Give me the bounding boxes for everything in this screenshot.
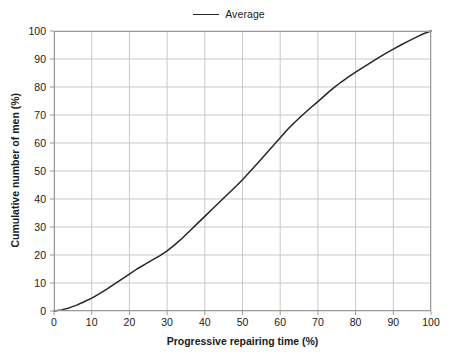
x-axis-tick-labels: 0102030405060708090100 (54, 317, 431, 333)
plot-frame (54, 31, 431, 311)
legend-label-average: Average (225, 9, 265, 20)
x-tick-label: 20 (109, 317, 149, 328)
plot-area (54, 31, 431, 311)
x-tick-label: 10 (72, 317, 112, 328)
x-tick-label: 80 (336, 317, 376, 328)
x-tick-label: 50 (223, 317, 263, 328)
x-axis-title: Progressive repairing time (%) (54, 336, 431, 347)
chart-legend: Average (0, 4, 458, 24)
x-tick-label: 70 (298, 317, 338, 328)
y-axis-tick-labels: 0102030405060708090100 (0, 31, 46, 311)
x-tick-label: 30 (147, 317, 187, 328)
x-tick-label: 40 (185, 317, 225, 328)
x-tick-label: 0 (34, 317, 74, 328)
plot-border (55, 32, 431, 311)
legend-line-swatch-average (193, 14, 219, 15)
x-tick-label: 60 (260, 317, 300, 328)
x-tick-label: 100 (411, 317, 451, 328)
y-axis-title: Cumulative number of men (%) (10, 30, 21, 310)
chart-figure: Average 0102030405060708090100 010203040… (0, 0, 458, 357)
x-tick-label: 90 (373, 317, 413, 328)
